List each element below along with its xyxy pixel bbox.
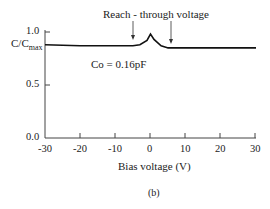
co-annotation: Co = 0.16pF [91, 59, 146, 70]
chart-plot [0, 0, 270, 209]
x-tick--10: -10 [108, 144, 122, 155]
x-tick--30: -30 [38, 144, 52, 155]
reach-through-annotation: Reach - through voltage [103, 9, 209, 20]
figure-caption: (b) [148, 188, 160, 198]
x-tick-20: 20 [215, 144, 226, 155]
x-tick--20: -20 [73, 144, 87, 155]
x-tick-30: 30 [250, 144, 261, 155]
y-tick-0.5: 0.5 [26, 79, 39, 90]
data-line [45, 34, 256, 48]
y-axis-label: C/Cmax [11, 38, 43, 52]
x-axis-label: Bias voltage (V) [118, 161, 191, 172]
y-tick-0.0: 0.0 [26, 132, 39, 143]
x-tick-10: 10 [180, 144, 191, 155]
y-tick-1.0: 1.0 [26, 26, 39, 37]
x-tick-0: 0 [147, 144, 152, 155]
